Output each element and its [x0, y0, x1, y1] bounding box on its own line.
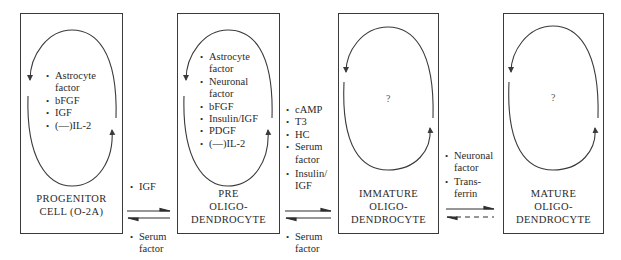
reverse-arrow-icon [286, 218, 331, 221]
oligodendrocyte-lineage-diagram: Astrocytefactor bFGF IGF (—)IL-2 Astrocy… [0, 0, 621, 260]
reverse-arrow-icon [128, 218, 170, 221]
forward-arrow-icon [285, 209, 331, 212]
forward-arrow-icon [446, 207, 494, 210]
forward-arrow-icon [127, 209, 170, 212]
reverse-dashed-arrow-icon [447, 217, 494, 220]
transition-arrows [0, 0, 621, 260]
